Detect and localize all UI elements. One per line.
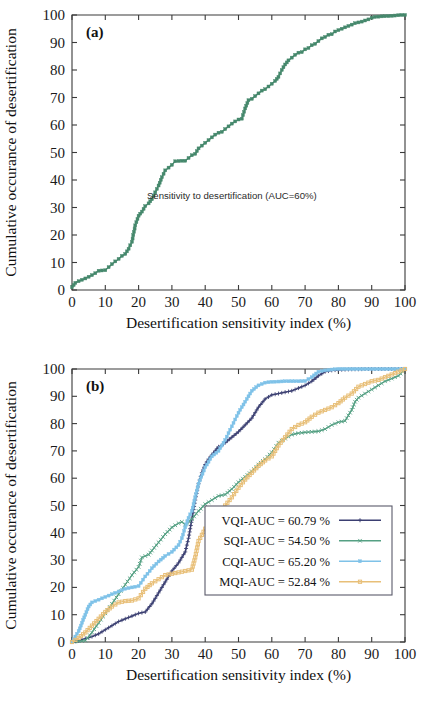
y-axis-tick-label: 0 xyxy=(58,282,66,298)
data-point-marker xyxy=(380,368,383,371)
data-point-marker xyxy=(114,260,117,263)
data-point-marker xyxy=(131,237,134,240)
data-point-marker xyxy=(370,16,373,19)
data-point-marker xyxy=(77,280,80,283)
data-point-marker xyxy=(104,595,107,598)
data-point-marker xyxy=(144,205,147,208)
data-point-marker xyxy=(217,131,220,134)
data-point-marker xyxy=(294,53,297,56)
data-point-marker xyxy=(167,552,170,555)
data-point-marker xyxy=(229,428,232,431)
y-axis-tick-label: 40 xyxy=(50,525,65,541)
data-point-marker xyxy=(354,368,357,371)
legend-item-label: SQI-AUC = 54.50 % xyxy=(224,534,331,548)
data-point-marker xyxy=(337,29,340,32)
data-point-marker xyxy=(390,368,393,371)
data-point-marker xyxy=(200,476,203,479)
data-point-marker xyxy=(279,72,282,75)
data-point-marker xyxy=(360,368,363,371)
data-point-marker xyxy=(317,40,320,43)
data-point-marker xyxy=(235,415,238,418)
x-axis-tick-label: 0 xyxy=(68,294,76,310)
y-axis-tick-label: 50 xyxy=(50,498,65,514)
data-point-marker xyxy=(307,47,310,50)
data-point-marker xyxy=(184,159,187,162)
data-point-marker xyxy=(324,369,327,372)
data-point-marker xyxy=(330,368,333,371)
data-point-marker xyxy=(97,269,100,272)
data-point-marker xyxy=(286,390,290,394)
x-axis-tick-label: 0 xyxy=(68,646,76,662)
y-axis-tick-label: 80 xyxy=(50,62,65,78)
data-point-marker xyxy=(290,380,293,383)
data-point-marker xyxy=(260,89,263,92)
data-point-marker xyxy=(359,560,362,563)
data-point-marker xyxy=(197,482,200,485)
data-point-marker xyxy=(100,269,103,272)
data-point-marker xyxy=(280,380,283,383)
x-axis-tick-label: 80 xyxy=(331,294,346,310)
data-point-marker xyxy=(195,492,198,495)
data-point-marker xyxy=(94,600,97,603)
data-point-marker xyxy=(270,380,273,383)
data-point-marker xyxy=(117,257,120,260)
data-point-marker xyxy=(187,533,191,537)
data-point-marker xyxy=(364,368,367,371)
legend-item-label: VQI-AUC = 60.79 % xyxy=(221,514,330,528)
data-point-marker xyxy=(214,133,217,136)
y-axis-tick-label: 60 xyxy=(50,470,65,486)
data-point-marker xyxy=(377,15,380,18)
data-point-marker xyxy=(170,526,174,530)
data-point-marker xyxy=(287,59,290,62)
data-point-marker xyxy=(367,18,370,21)
data-point-marker xyxy=(204,141,207,144)
data-point-marker xyxy=(237,118,240,121)
data-point-marker xyxy=(224,438,227,441)
data-point-marker xyxy=(90,631,94,635)
data-point-marker xyxy=(170,163,173,166)
data-point-marker xyxy=(314,42,317,45)
data-point-marker xyxy=(142,578,145,581)
plot-frame xyxy=(72,15,405,290)
data-point-marker xyxy=(387,368,390,371)
data-point-marker xyxy=(327,368,330,371)
x-axis-tick-label: 90 xyxy=(364,294,379,310)
chart-svg: 0102030405060708090100010203040506070809… xyxy=(0,345,425,705)
y-axis-title: Cumulative occurance of desertification xyxy=(2,28,19,277)
data-point-marker xyxy=(344,368,347,371)
data-point-marker xyxy=(202,469,205,472)
data-point-marker xyxy=(197,147,200,150)
data-point-marker xyxy=(304,48,307,51)
x-axis-tick-label: 60 xyxy=(264,294,279,310)
data-point-marker xyxy=(132,234,135,237)
y-axis-tick-label: 40 xyxy=(50,172,65,188)
x-axis-tick-label: 30 xyxy=(164,294,179,310)
data-point-marker xyxy=(136,217,139,220)
data-point-marker xyxy=(390,14,393,17)
data-point-marker xyxy=(257,92,260,95)
data-point-marker xyxy=(307,378,310,381)
data-point-marker xyxy=(128,577,132,581)
data-point-marker xyxy=(347,368,350,371)
chart-panel-a: 0102030405060708090100010203040506070809… xyxy=(0,0,425,353)
legend-item-label: MQI-AUC = 52.84 % xyxy=(219,575,330,589)
data-point-marker xyxy=(327,425,331,429)
data-point-marker xyxy=(400,14,403,17)
data-point-marker xyxy=(137,585,140,588)
y-axis-tick-label: 10 xyxy=(50,255,65,271)
data-point-marker xyxy=(187,516,190,519)
data-point-marker xyxy=(185,543,189,547)
y-axis-tick-label: 70 xyxy=(50,443,65,459)
data-point-marker xyxy=(117,590,120,593)
data-point-marker xyxy=(364,19,367,22)
data-point-marker xyxy=(277,380,280,383)
data-point-marker xyxy=(184,526,187,529)
data-point-marker xyxy=(196,486,199,489)
chart-svg: 0102030405060708090100010203040506070809… xyxy=(0,0,425,353)
data-point-marker xyxy=(124,587,127,590)
y-axis-tick-label: 20 xyxy=(50,227,65,243)
data-point-marker xyxy=(188,530,192,534)
data-point-marker xyxy=(225,435,228,438)
data-point-marker xyxy=(186,519,189,522)
y-axis-tick-label: 30 xyxy=(50,552,65,568)
